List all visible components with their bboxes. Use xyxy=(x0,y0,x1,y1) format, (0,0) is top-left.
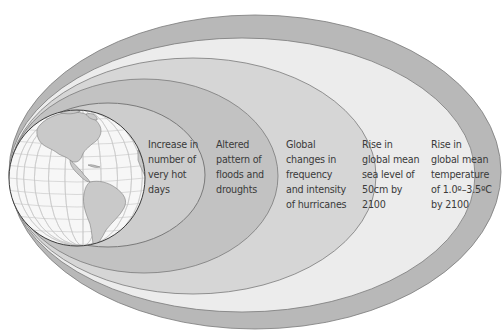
ring-label-hurricanes: Globalchanges infrequencyand intensityof… xyxy=(286,137,346,212)
label-line: Rise in xyxy=(362,137,419,152)
label-line: pattern of xyxy=(216,152,264,167)
label-line: temperature xyxy=(431,167,492,182)
label-line: by 2100 xyxy=(431,197,492,212)
label-line: 50cm by xyxy=(362,182,419,197)
label-line: Increase in xyxy=(148,137,198,152)
label-line: number of xyxy=(148,152,198,167)
label-line: 2100 xyxy=(362,197,419,212)
label-line: of 1.0º–3.5ºC xyxy=(431,182,492,197)
label-line: of hurricanes xyxy=(286,197,346,212)
label-line: droughts xyxy=(216,182,264,197)
ring-label-sea-level: Rise inglobal meansea level of50cm by210… xyxy=(362,137,419,212)
label-line: floods and xyxy=(216,167,264,182)
ring-label-temperature: Rise inglobal meantemperatureof 1.0º–3.5… xyxy=(431,137,492,212)
ring-label-hot-days: Increase innumber ofvery hotdays xyxy=(148,137,198,197)
label-line: sea level of xyxy=(362,167,419,182)
label-line: changes in xyxy=(286,152,346,167)
label-line: Altered xyxy=(216,137,264,152)
label-line: very hot xyxy=(148,167,198,182)
label-line: Global xyxy=(286,137,346,152)
label-line: frequency xyxy=(286,167,346,182)
label-line: and intensity xyxy=(286,182,346,197)
label-line: days xyxy=(148,182,198,197)
ring-label-floods-droughts: Alteredpattern offloods anddroughts xyxy=(216,137,264,197)
label-line: global mean xyxy=(362,152,419,167)
label-line: Rise in xyxy=(431,137,492,152)
label-line: global mean xyxy=(431,152,492,167)
